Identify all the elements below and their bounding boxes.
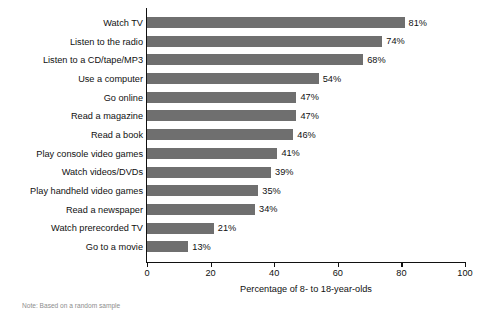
chart-plot-area: Watch TV81%Listen to the radio74%Listen …: [0, 14, 480, 257]
bar-container: 39%: [147, 167, 271, 178]
bar: [147, 54, 363, 65]
bar-container: 54%: [147, 73, 319, 84]
chart-bar-row: Listen to a CD/tape/MP368%: [0, 51, 480, 70]
bar-container: 35%: [147, 185, 258, 196]
chart-bar-row: Watch TV81%: [0, 14, 480, 33]
chart-bar-row: Read a book46%: [0, 126, 480, 145]
bar-container: 41%: [147, 148, 277, 159]
x-axis-title: Percentage of 8- to 18-year-olds: [147, 284, 465, 295]
bar-category-label: Play handheld video games: [13, 186, 143, 197]
bar-container: 47%: [147, 92, 296, 103]
x-axis-tick: [147, 262, 148, 267]
x-axis-tick: [465, 262, 466, 267]
bar: [147, 204, 255, 215]
x-axis-tick: [211, 262, 212, 267]
x-axis-tick: [274, 262, 275, 267]
bar-value-label: 54%: [323, 73, 341, 84]
chart-bar-row: Go to a movie13%: [0, 238, 480, 257]
bar-value-label: 35%: [262, 185, 280, 196]
bar: [147, 110, 296, 121]
chart-footnote: Note: Based on a random sample: [22, 302, 462, 310]
bar: [147, 92, 296, 103]
bar-container: 13%: [147, 241, 188, 252]
chart-bar-row: Play handheld video games35%: [0, 182, 480, 201]
bar-container: 46%: [147, 129, 293, 140]
chart-bar-row: Play console video games41%: [0, 145, 480, 164]
bar-container: 21%: [147, 223, 214, 234]
bar-category-label: Listen to a CD/tape/MP3: [13, 55, 143, 66]
bar-category-label: Read a book: [13, 130, 143, 141]
x-axis-tick: [401, 262, 402, 267]
bar-category-label: Watch TV: [13, 18, 143, 29]
x-axis-tick-label: 80: [396, 268, 406, 279]
bar-chart: Watch TV81%Listen to the radio74%Listen …: [0, 0, 480, 310]
chart-bar-row: Read a newspaper34%: [0, 201, 480, 220]
bar-category-label: Play console video games: [13, 149, 143, 160]
x-axis-tick-label: 0: [144, 268, 149, 279]
bar-category-label: Read a newspaper: [13, 205, 143, 216]
bar: [147, 185, 258, 196]
chart-bar-row: Watch prerecorded TV21%: [0, 220, 480, 239]
bar-container: 81%: [147, 17, 405, 28]
x-axis-tick-label: 20: [205, 268, 215, 279]
bar-value-label: 74%: [386, 36, 404, 47]
bar-category-label: Watch videos/DVDs: [13, 167, 143, 178]
bar-value-label: 21%: [218, 223, 236, 234]
bar: [147, 36, 382, 47]
bar-value-label: 41%: [281, 148, 299, 159]
bar-container: 74%: [147, 36, 382, 47]
bar-value-label: 47%: [300, 92, 318, 103]
bar-container: 68%: [147, 54, 363, 65]
bar-category-label: Listen to the radio: [13, 37, 143, 48]
bar: [147, 129, 293, 140]
x-axis-tick-label: 40: [269, 268, 279, 279]
x-axis-tick: [338, 262, 339, 267]
y-axis-line: [146, 8, 147, 262]
bar-value-label: 47%: [300, 110, 318, 121]
bar-container: 47%: [147, 110, 296, 121]
bar-container: 34%: [147, 204, 255, 215]
bar-value-label: 46%: [297, 129, 315, 140]
bar-category-label: Read a magazine: [13, 111, 143, 122]
bar-value-label: 34%: [259, 204, 277, 215]
bar: [147, 167, 271, 178]
bar-value-label: 68%: [367, 54, 385, 65]
bar-category-label: Watch prerecorded TV: [13, 223, 143, 234]
bar: [147, 241, 188, 252]
chart-bar-row: Read a magazine47%: [0, 107, 480, 126]
bar: [147, 223, 214, 234]
bar-category-label: Go to a movie: [13, 242, 143, 253]
x-axis-line: [146, 262, 466, 263]
bar: [147, 148, 277, 159]
chart-bar-row: Watch videos/DVDs39%: [0, 164, 480, 183]
bar-value-label: 81%: [409, 17, 427, 28]
chart-bar-row: Use a computer54%: [0, 70, 480, 89]
bar-category-label: Go online: [13, 93, 143, 104]
bar-value-label: 39%: [275, 167, 293, 178]
chart-bar-row: Listen to the radio74%: [0, 33, 480, 52]
bar: [147, 17, 405, 28]
x-axis-tick-label: 60: [333, 268, 343, 279]
x-axis-tick-label: 100: [457, 268, 472, 279]
chart-bar-row: Go online47%: [0, 89, 480, 108]
bar-value-label: 13%: [192, 241, 210, 252]
bar-category-label: Use a computer: [13, 74, 143, 85]
bar: [147, 73, 319, 84]
